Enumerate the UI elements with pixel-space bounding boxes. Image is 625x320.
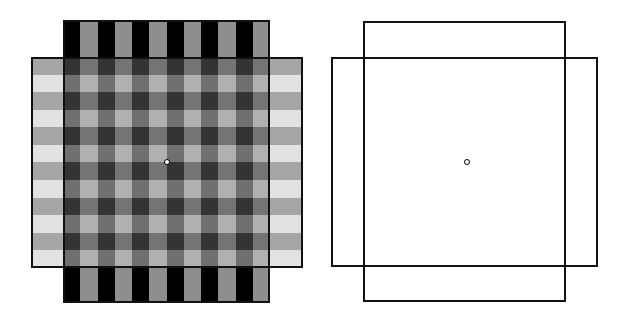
center-fixation-dot-right [464,159,470,165]
center-fixation-dot [164,159,170,165]
